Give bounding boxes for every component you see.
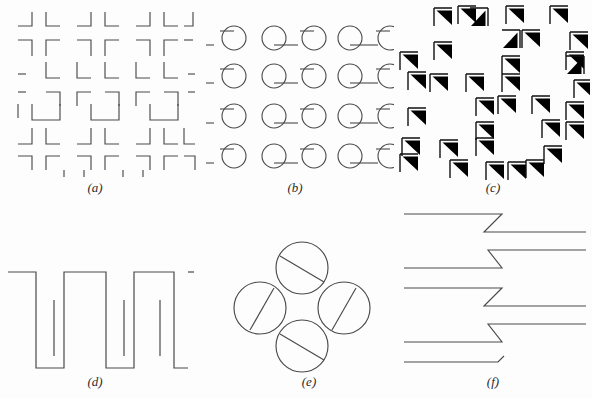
panel-f [398,202,590,374]
figure-root: (a) [0,0,592,399]
panel-d [2,258,198,376]
panel-a [2,0,198,178]
panel-label-d: (d) [65,374,125,390]
panel-label-b: (b) [265,180,325,196]
panel-e-graphic [228,240,390,376]
panel-d-graphic [2,258,198,376]
panel-b-graphic [198,22,394,178]
panel-label-c: (c) [463,180,523,196]
panel-e [228,240,390,376]
panel-label-e: (e) [279,374,339,390]
panel-label-f: (f) [463,374,523,390]
panel-label-a: (a) [65,180,125,196]
panel-c-graphic [398,4,590,180]
panel-b [198,22,394,178]
panel-c [398,4,590,180]
panel-f-graphic [398,202,590,374]
panel-a-graphic [2,0,198,178]
